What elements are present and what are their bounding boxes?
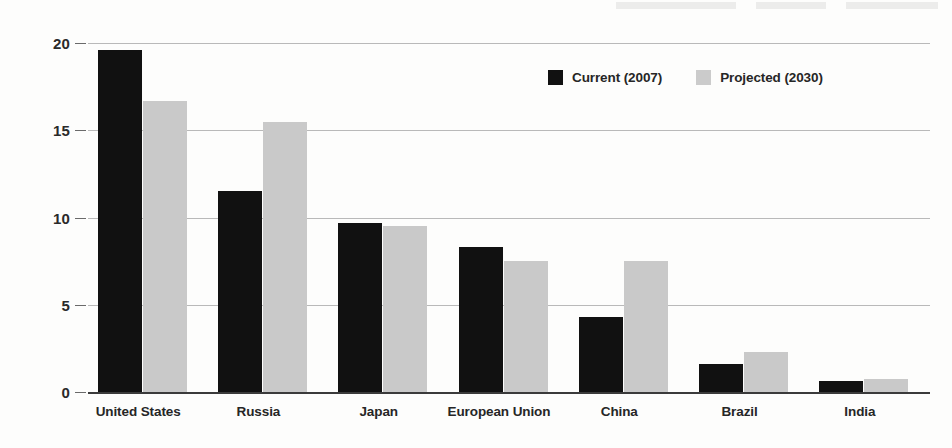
legend-item-projected[interactable]: Projected (2030) (696, 70, 823, 85)
y-tick-label: 15 (10, 122, 70, 139)
x-axis-label: India (800, 404, 920, 419)
legend-label-projected: Projected (2030) (720, 70, 823, 85)
y-tick-label: 5 (10, 296, 70, 313)
bar-current[interactable] (819, 381, 863, 392)
bar-current[interactable] (459, 247, 503, 392)
bar-group (819, 43, 908, 392)
scan-artifact (756, 2, 826, 9)
bar-group (218, 43, 307, 392)
legend-item-current[interactable]: Current (2007) (548, 70, 662, 85)
legend-swatch-projected-icon (696, 70, 711, 85)
bar-group (579, 43, 668, 392)
x-axis-label: European Union (439, 404, 559, 419)
bar-projected[interactable] (383, 226, 427, 392)
bar-projected[interactable] (624, 261, 668, 392)
x-axis-label: Brazil (679, 404, 799, 419)
y-tick-label: 20 (10, 35, 70, 52)
y-tick-mark (75, 218, 86, 219)
chart-legend: Current (2007) Projected (2030) (548, 70, 823, 85)
y-tick-mark (75, 43, 86, 44)
bar-group (699, 43, 788, 392)
legend-swatch-current-icon (548, 70, 563, 85)
scan-artifact (846, 2, 938, 9)
x-axis-label: Japan (319, 404, 439, 419)
bar-current[interactable] (699, 364, 743, 392)
scan-artifact (616, 2, 736, 9)
bar-current[interactable] (579, 317, 623, 392)
y-tick-label: 0 (10, 384, 70, 401)
bar-projected[interactable] (744, 352, 788, 392)
bar-projected[interactable] (864, 379, 908, 392)
bar-projected[interactable] (263, 122, 307, 392)
legend-label-current: Current (2007) (572, 70, 662, 85)
y-tick-mark (75, 130, 86, 131)
x-axis-label: United States (78, 404, 198, 419)
bar-projected[interactable] (504, 261, 548, 392)
bar-group (338, 43, 427, 392)
y-tick-label: 10 (10, 209, 70, 226)
bar-current[interactable] (338, 223, 382, 392)
axis-baseline (88, 392, 930, 394)
x-axis-label: Russia (198, 404, 318, 419)
bar-group (98, 43, 187, 392)
bar-chart-figure: tons CO2 per person 05101520 United Stat… (0, 0, 952, 448)
bar-current[interactable] (98, 50, 142, 392)
bar-projected[interactable] (143, 101, 187, 392)
y-tick-mark (75, 392, 86, 393)
plot-area (88, 43, 930, 392)
y-tick-mark (75, 305, 86, 306)
bar-current[interactable] (218, 191, 262, 392)
bar-group (459, 43, 548, 392)
x-axis-label: China (559, 404, 679, 419)
